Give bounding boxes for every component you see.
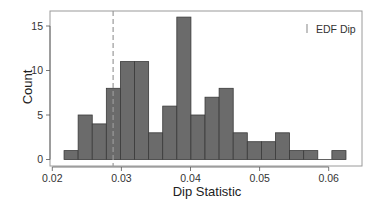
histogram-chart: 0.020.030.040.050.06 051015 EDF Dip Dip … [0,0,375,208]
x-tick-label: 0.02 [42,172,63,184]
legend-label: EDF Dip [316,23,356,35]
y-tick-label: 15 [31,20,43,32]
histogram-bar [205,97,219,159]
histogram-bar [149,133,163,160]
legend: EDF Dip [307,23,356,35]
histogram-bar [92,124,106,160]
histogram-bar [177,17,191,159]
histogram-bar [219,88,233,159]
y-tick-label: 5 [37,109,43,121]
histogram-bars [64,17,346,159]
histogram-bar [304,151,318,160]
histogram-bar [135,62,149,160]
histogram-bar [332,151,346,160]
histogram-bar [163,106,177,159]
x-axis-title: Dip Statistic [173,184,242,199]
histogram-bar [275,133,289,160]
histogram-bar [191,115,205,160]
x-tick-label: 0.03 [111,172,132,184]
histogram-bar [78,115,92,160]
histogram-bar [261,142,275,160]
histogram-bar [247,142,261,160]
histogram-bar [233,133,247,160]
x-tick-label: 0.05 [249,172,270,184]
x-axis: 0.020.030.040.050.06 [42,167,339,184]
histogram-bar [120,62,134,160]
y-axis-title: Count [20,69,35,104]
x-tick-label: 0.04 [180,172,201,184]
y-tick-label: 0 [37,153,43,165]
histogram-bar [290,151,304,160]
x-tick-label: 0.06 [318,172,339,184]
histogram-bar [64,151,78,160]
